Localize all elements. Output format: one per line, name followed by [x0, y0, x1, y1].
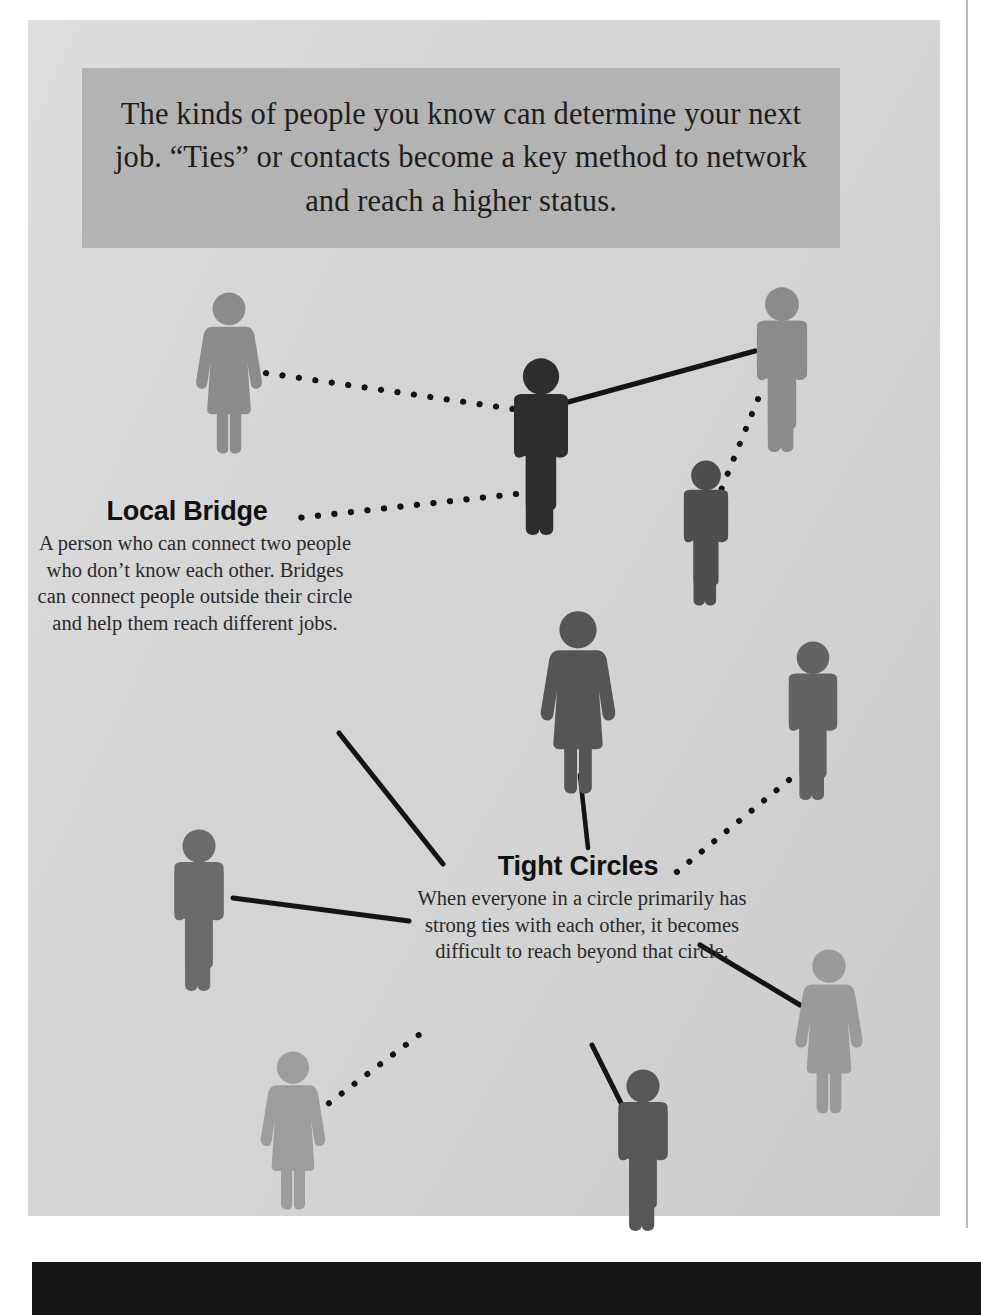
edge-n7-tight-circles-solid [233, 898, 409, 921]
person-icon-n1 [196, 292, 262, 453]
header-text: The kinds of people you know can determi… [82, 93, 840, 223]
person-icon-n9 [261, 1051, 326, 1209]
person-icon-n2-bridge [514, 358, 568, 535]
edge-n3-n4-dotted [717, 399, 758, 500]
tight-circles-body: When everyone in a circle primarily has … [412, 885, 752, 965]
callout-local-bridge: Local Bridge A person who can connect tw… [36, 496, 354, 637]
header-banner: The kinds of people you know can determi… [82, 68, 840, 248]
tight-circles-heading: Tight Circles [412, 851, 752, 882]
edge-local-bridge-to-tight-circles-solid [339, 733, 443, 864]
edge-n1-n2-dotted [266, 373, 513, 409]
person-icon-n4 [684, 461, 728, 606]
edge-n2-n3-solid [561, 351, 755, 404]
person-icon-n8 [795, 949, 862, 1113]
edge-n9-tight-circles-dotted [316, 1028, 428, 1113]
person-icon-n6 [789, 641, 837, 800]
person-icon-n3 [757, 287, 807, 452]
callout-tight-circles: Tight Circles When everyone in a circle … [412, 851, 752, 965]
person-icon-n10 [618, 1069, 667, 1231]
local-bridge-body: A person who can connect two people who … [36, 530, 354, 637]
local-bridge-heading: Local Bridge [36, 496, 354, 527]
person-icon-n7 [174, 829, 223, 991]
person-icon-n5 [541, 611, 616, 793]
node-layer [174, 287, 862, 1231]
